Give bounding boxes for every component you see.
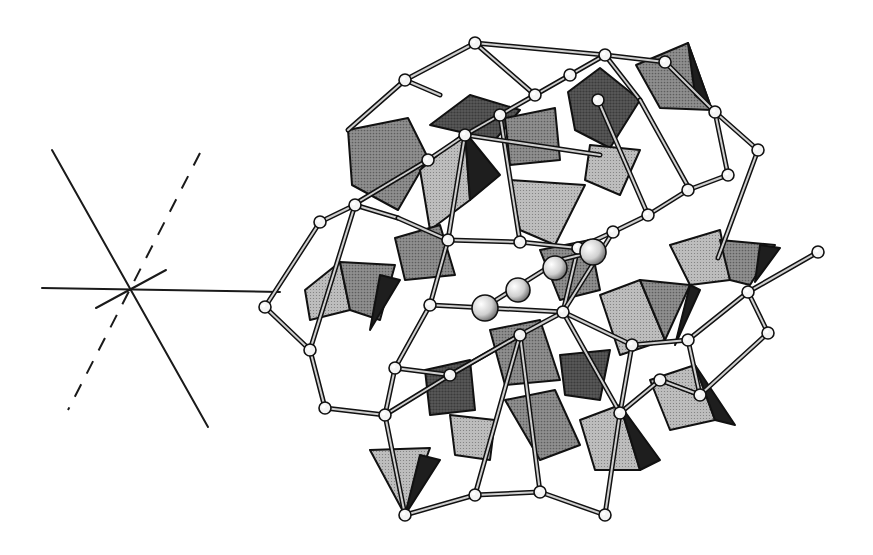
atom-highlight bbox=[697, 392, 701, 396]
atom-highlight bbox=[447, 372, 451, 376]
atom-node bbox=[422, 154, 434, 166]
atom-highlight bbox=[322, 405, 326, 409]
atom-node bbox=[349, 199, 361, 211]
atom-highlight bbox=[427, 302, 431, 306]
atom-highlight bbox=[567, 72, 571, 76]
atom-highlight bbox=[725, 172, 729, 176]
atom-highlight bbox=[497, 112, 501, 116]
atom-highlight bbox=[657, 377, 661, 381]
atom-node bbox=[389, 362, 401, 374]
atom-highlight bbox=[815, 249, 819, 253]
polyhedron-face bbox=[560, 350, 610, 400]
atom-highlight bbox=[765, 330, 769, 334]
atom-node bbox=[694, 389, 706, 401]
atom-node bbox=[314, 216, 326, 228]
atom-highlight bbox=[262, 304, 266, 308]
atom-node bbox=[812, 246, 824, 258]
atom-node bbox=[626, 339, 638, 351]
crystal-structure-figure bbox=[0, 0, 873, 555]
atom-node bbox=[709, 106, 721, 118]
atom-highlight bbox=[445, 237, 449, 241]
atom-highlight bbox=[352, 202, 356, 206]
cation-sphere bbox=[472, 295, 498, 321]
atom-node bbox=[259, 301, 271, 313]
atom-node bbox=[379, 409, 391, 421]
atom-highlight bbox=[425, 157, 429, 161]
atom-node bbox=[752, 144, 764, 156]
atom-highlight bbox=[307, 347, 311, 351]
atom-highlight bbox=[472, 492, 476, 496]
atom-node bbox=[319, 402, 331, 414]
atom-node bbox=[722, 169, 734, 181]
atom-highlight bbox=[575, 245, 579, 249]
atom-node bbox=[399, 509, 411, 521]
atom-node bbox=[592, 94, 604, 106]
atom-highlight bbox=[462, 132, 466, 136]
atom-highlight bbox=[602, 512, 606, 516]
atom-highlight bbox=[645, 212, 649, 216]
atom-highlight bbox=[517, 239, 521, 243]
atom-highlight bbox=[517, 332, 521, 336]
atom-node bbox=[682, 334, 694, 346]
atom-highlight bbox=[595, 97, 599, 101]
atom-node bbox=[304, 344, 316, 356]
atom-highlight bbox=[745, 289, 749, 293]
atom-highlight bbox=[602, 52, 606, 56]
atom-node bbox=[469, 37, 481, 49]
atom-node bbox=[742, 286, 754, 298]
atom-highlight bbox=[617, 410, 621, 414]
polyhedron-face bbox=[505, 108, 560, 165]
atom-node bbox=[444, 369, 456, 381]
atom-node bbox=[654, 374, 666, 386]
atom-node bbox=[459, 129, 471, 141]
atom-node bbox=[564, 69, 576, 81]
atom-node bbox=[514, 236, 526, 248]
atom-highlight bbox=[537, 489, 541, 493]
atom-highlight bbox=[402, 77, 406, 81]
atom-highlight bbox=[317, 219, 321, 223]
atom-node bbox=[514, 329, 526, 341]
atom-highlight bbox=[472, 40, 476, 44]
atom-node bbox=[442, 234, 454, 246]
atom-node bbox=[494, 109, 506, 121]
atom-node bbox=[469, 489, 481, 501]
atom-node bbox=[642, 209, 654, 221]
atom-node bbox=[607, 226, 619, 238]
atom-highlight bbox=[685, 337, 689, 341]
atom-node bbox=[424, 299, 436, 311]
atom-node bbox=[529, 89, 541, 101]
atom-highlight bbox=[392, 365, 396, 369]
atom-node bbox=[682, 184, 694, 196]
cation-sphere bbox=[580, 239, 606, 265]
atom-highlight bbox=[560, 309, 564, 313]
atom-node bbox=[599, 509, 611, 521]
atom-highlight bbox=[382, 412, 386, 416]
atom-highlight bbox=[662, 59, 666, 63]
atom-highlight bbox=[610, 229, 614, 233]
atom-highlight bbox=[532, 92, 536, 96]
cation-sphere bbox=[506, 278, 530, 302]
atom-highlight bbox=[629, 342, 633, 346]
atom-node bbox=[557, 306, 569, 318]
atom-node bbox=[614, 407, 626, 419]
atom-node bbox=[762, 327, 774, 339]
atom-node bbox=[534, 486, 546, 498]
atom-node bbox=[599, 49, 611, 61]
atom-node bbox=[399, 74, 411, 86]
atom-highlight bbox=[685, 187, 689, 191]
atom-highlight bbox=[402, 512, 406, 516]
cation-sphere bbox=[543, 256, 567, 280]
atom-node bbox=[659, 56, 671, 68]
atom-highlight bbox=[755, 147, 759, 151]
atom-highlight bbox=[712, 109, 716, 113]
